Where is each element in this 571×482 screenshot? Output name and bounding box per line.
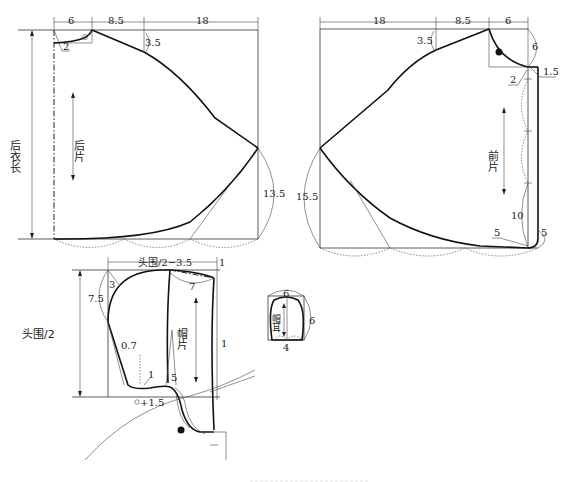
hood-piece: [72, 257, 255, 460]
back-length-label: 后衣长: [8, 140, 22, 173]
back-neck-width-label: 6: [68, 15, 74, 26]
hood-dart-mark-label: 1: [148, 369, 154, 380]
front-hem-round-a-label: 5: [494, 227, 500, 238]
front-hem-curve-label: 10: [511, 210, 524, 221]
svg-text:后衣长: 后衣长: [8, 140, 22, 173]
front-placket-ext-label: 1.5: [543, 66, 559, 77]
hood-height-label: 头围/2: [22, 328, 55, 341]
hood-width-label: 头围/2−3.5: [138, 257, 192, 268]
back-shoulder-width-label: 8.5: [108, 15, 124, 26]
hood-piece-name: 帽片: [175, 328, 189, 351]
hood-ear-top-label: 6: [283, 288, 289, 299]
hood-dart-left-label: 0.7: [121, 340, 137, 351]
front-neck-offset-label: 2: [510, 74, 516, 85]
back-neck-depth-label: 2: [63, 41, 69, 52]
hood-ear-name: 帽耳: [271, 313, 281, 333]
hood-dart-length-label: 5: [171, 372, 177, 383]
hood-top-offset-label: 1: [219, 257, 225, 268]
front-neck-depth-label: 6: [532, 41, 538, 52]
back-side-length-label: 13.5: [263, 188, 285, 199]
back-piece: [18, 17, 274, 248]
front-piece-name: 前片: [486, 149, 500, 173]
hood-back-curve-label: 7.5: [88, 293, 104, 304]
hood-ear-side-label: 6: [309, 315, 315, 326]
back-body-width-label: 18: [196, 15, 209, 26]
front-shoulder-width-label: 8.5: [455, 15, 471, 26]
front-shoulder-drop-label: 3.5: [417, 35, 433, 46]
back-piece-name: 后片: [72, 140, 86, 163]
front-body-width-label: 18: [373, 15, 386, 26]
front-hem-round-b-label: 5: [541, 227, 547, 238]
pattern-diagram: 6 8.5 18 3.5 2 13.5 后衣长 后片: [0, 0, 571, 482]
front-neck-width-label: 6: [505, 15, 511, 26]
hood-corner-label: 3: [109, 279, 115, 290]
front-side-length-label: 15.5: [296, 191, 318, 202]
hood-bottom-ext-label: +1.5: [140, 397, 164, 408]
hood-ear-bottom-label: 4: [283, 342, 289, 353]
hood-front-curve-label: 7: [189, 281, 195, 292]
back-shoulder-drop-label: 3.5: [145, 37, 161, 48]
hood-front-edge-label: 1: [221, 338, 227, 349]
